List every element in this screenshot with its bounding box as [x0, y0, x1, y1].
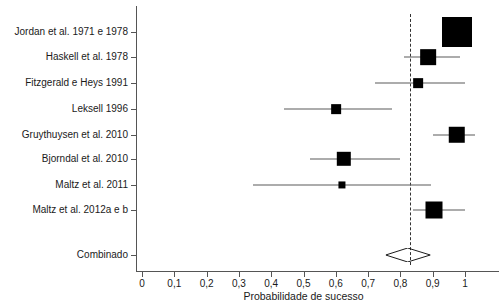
- summary-diamond: [386, 248, 431, 262]
- y-axis-tick: [131, 57, 136, 58]
- study-label: Gruythuysen et al. 2010: [22, 129, 128, 141]
- y-axis-tick: [131, 135, 136, 136]
- x-axis-tick-label: 0,4: [264, 278, 278, 289]
- study-label: Jordan et al. 1971 e 1978: [15, 26, 128, 38]
- x-axis-tick: [304, 272, 305, 277]
- x-axis-tick-label: 0,6: [329, 278, 343, 289]
- effect-estimate-marker: [420, 49, 436, 65]
- x-axis-tick-label: 0,7: [361, 278, 375, 289]
- effect-estimate-marker: [337, 152, 351, 166]
- y-axis-tick: [131, 255, 136, 256]
- reference-line: [410, 14, 411, 265]
- study-label: Leksell 1996: [72, 103, 128, 115]
- x-axis-tick-label: 0,3: [232, 278, 246, 289]
- confidence-interval-line: [310, 159, 400, 160]
- y-axis-tick: [131, 32, 136, 33]
- x-axis-tick: [207, 272, 208, 277]
- x-axis-tick: [142, 272, 143, 277]
- x-axis-tick: [271, 272, 272, 277]
- y-axis-tick: [131, 83, 136, 84]
- x-axis-tick: [400, 272, 401, 277]
- x-axis-tick: [465, 272, 466, 277]
- x-axis-line: [136, 271, 499, 272]
- effect-estimate-marker: [442, 17, 472, 47]
- y-axis-tick: [131, 210, 136, 211]
- study-label: Fitzgerald e Heys 1991: [25, 77, 128, 89]
- summary-label: Combinado: [77, 249, 128, 261]
- effect-estimate-marker: [426, 202, 443, 219]
- study-label: Bjorndal et al. 2010: [42, 153, 128, 165]
- x-axis-title: Probabilidade de sucesso: [243, 290, 363, 302]
- x-axis-tick: [239, 272, 240, 277]
- study-label: Haskell et al. 1978: [46, 51, 128, 63]
- x-axis-tick-label: 0,9: [426, 278, 440, 289]
- effect-estimate-marker: [413, 78, 423, 88]
- study-label: Maltz et al. 2012a e b: [32, 204, 128, 216]
- forest-plot-figure: Jordan et al. 1971 e 1978Haskell et al. …: [0, 0, 503, 303]
- x-axis-tick-label: 1: [462, 278, 468, 289]
- effect-estimate-marker: [331, 104, 341, 114]
- y-axis-tick: [131, 159, 136, 160]
- y-axis-tick: [131, 185, 136, 186]
- x-axis-tick-label: 0,8: [393, 278, 407, 289]
- x-axis-tick: [174, 272, 175, 277]
- x-axis-tick-label: 0: [139, 278, 145, 289]
- x-axis-tick-label: 0,2: [200, 278, 214, 289]
- x-axis-tick: [336, 272, 337, 277]
- x-axis-tick-label: 0,1: [167, 278, 181, 289]
- study-label: Maltz et al. 2011: [55, 179, 128, 191]
- y-axis-tick: [131, 109, 136, 110]
- x-axis-tick: [368, 272, 369, 277]
- effect-estimate-marker: [339, 181, 346, 188]
- effect-estimate-marker: [449, 127, 465, 143]
- x-axis-tick-label: 0,5: [297, 278, 311, 289]
- y-axis-line: [136, 6, 137, 271]
- x-axis-tick: [433, 272, 434, 277]
